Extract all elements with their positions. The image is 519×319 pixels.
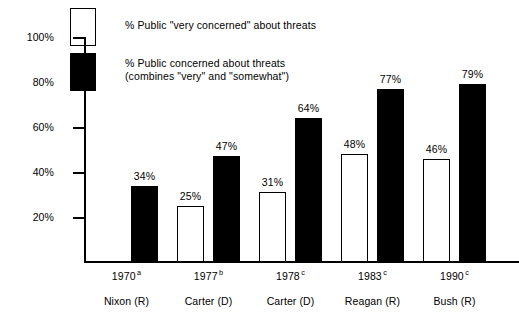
y-axis-tick-label: 100% xyxy=(6,31,54,43)
bar-value-label: 25% xyxy=(167,190,214,202)
y-axis-tick-label: 40% xyxy=(6,166,54,178)
x-axis-year-text: 1990 xyxy=(440,270,464,282)
y-axis-tick-label: 20% xyxy=(6,211,54,223)
y-axis-tick xyxy=(73,37,84,39)
bar-value-label: 34% xyxy=(121,170,168,182)
y-axis-tick-label: 60% xyxy=(6,121,54,133)
bar-value-label: 64% xyxy=(285,102,332,114)
x-axis-year-label: 1970a xyxy=(82,268,172,282)
legend-item-very-concerned: % Public "very concerned" about threats xyxy=(70,8,316,46)
bar-value-label: 46% xyxy=(413,143,460,155)
legend-swatch-filled xyxy=(70,53,96,91)
x-axis-line xyxy=(84,261,519,263)
x-axis-year-text: 1970 xyxy=(112,270,136,282)
x-axis-year-label: 1983c xyxy=(328,268,418,282)
bar-value-label: 48% xyxy=(331,138,378,150)
y-axis-tick-label: 80% xyxy=(6,76,54,88)
bar-1990-very-concerned xyxy=(423,159,450,263)
bar-chart-figure: % Public "very concerned" about threats … xyxy=(0,0,519,319)
bar-1978-very-concerned xyxy=(259,192,286,262)
legend-swatch-open xyxy=(70,8,96,46)
x-axis-year-footnote: c xyxy=(301,268,305,277)
x-axis-administration-label: Carter (D) xyxy=(154,295,264,307)
bar-1983-combined xyxy=(377,89,404,262)
x-axis-administration-label: Reagan (R) xyxy=(318,295,428,307)
x-axis-year-text: 1983 xyxy=(358,270,382,282)
x-axis-administration-label: Carter (D) xyxy=(236,295,346,307)
chart-legend: % Public "very concerned" about threats … xyxy=(70,8,500,88)
x-axis-year-footnote: c xyxy=(383,268,387,277)
bar-1978-combined xyxy=(295,118,322,262)
x-axis-year-label: 1978c xyxy=(246,268,336,282)
x-axis-year-label: 1990c xyxy=(410,268,500,282)
legend-item-combined-concerned: % Public concerned about threats (combin… xyxy=(70,53,289,91)
x-axis-year-footnote: c xyxy=(465,268,469,277)
legend-label-very-concerned: % Public "very concerned" about threats xyxy=(125,8,316,32)
x-axis-administration-label: Nixon (R) xyxy=(72,295,182,307)
bar-value-label: 47% xyxy=(203,140,250,152)
bar-1970-combined xyxy=(131,186,158,263)
legend-label-combined-concerned: % Public concerned about threats (combin… xyxy=(125,53,289,83)
bar-1990-combined xyxy=(459,84,486,262)
y-axis-tick xyxy=(73,172,84,174)
bar-1977-very-concerned xyxy=(177,206,204,262)
bar-value-label: 31% xyxy=(249,176,296,188)
x-axis-administration-label: Bush (R) xyxy=(400,295,510,307)
x-axis-year-text: 1978 xyxy=(276,270,300,282)
x-axis-year-footnote: b xyxy=(219,268,223,277)
x-axis-year-label: 1977b xyxy=(164,268,254,282)
y-axis-line xyxy=(84,37,86,263)
y-axis-tick xyxy=(73,217,84,219)
y-axis-tick xyxy=(73,127,84,129)
x-axis-year-footnote: a xyxy=(137,268,141,277)
bar-1983-very-concerned xyxy=(341,154,368,262)
x-axis-year-text: 1977 xyxy=(194,270,218,282)
y-axis-tick xyxy=(73,82,84,84)
bar-1977-combined xyxy=(213,156,240,262)
